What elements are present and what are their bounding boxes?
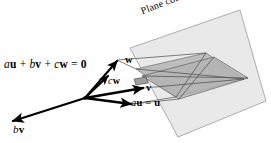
label-vector-cw: cw <box>108 76 120 86</box>
vector-diagram-figure: au + bv + cw = 0 Plane containing u, v, … <box>0 0 271 143</box>
origin-point <box>83 96 87 100</box>
label-au-result: u <box>154 97 160 108</box>
equation-vector-w: w <box>59 58 68 70</box>
diagram-canvas <box>0 0 271 143</box>
equation-zero: 0 <box>81 58 87 70</box>
equation-equals: = <box>68 58 81 70</box>
equation-plus-2: + <box>41 58 54 70</box>
label-vector-bv: bv <box>13 124 24 135</box>
arrow-bv <box>13 98 85 121</box>
label-bv-vector: v <box>19 123 25 135</box>
equation-plus-1: + <box>17 58 30 70</box>
label-cw-vector: w <box>113 75 120 86</box>
equation-vector-u: u <box>10 58 17 70</box>
label-vector-w: w <box>125 55 133 66</box>
label-vector-v: v <box>146 83 151 94</box>
label-au-equals: = <box>143 97 155 108</box>
arrow-au <box>85 98 131 104</box>
equation-label: au + bv + cw = 0 <box>4 59 87 71</box>
label-vector-au: au = u <box>131 98 160 109</box>
